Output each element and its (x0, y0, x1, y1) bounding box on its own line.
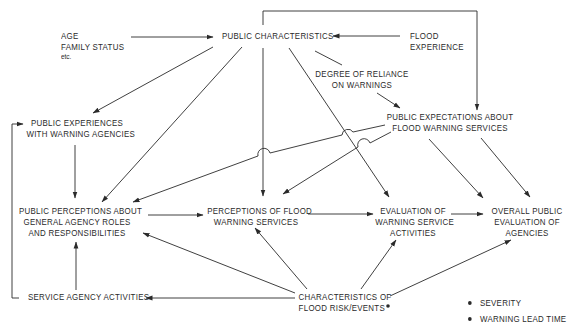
node-demographics-line-1: AGE (61, 31, 124, 42)
edge-risk-to-evaluation (361, 240, 396, 289)
edge-risk-to-overall (390, 240, 511, 296)
node-flood-experience: FLOOD EXPERIENCE (410, 31, 464, 53)
legend-item-warning-lead-time: WARNING LEAD TIME (468, 314, 566, 325)
edge-expectations-to-perceptions-roles (133, 125, 385, 202)
node-demographics-line-2: FAMILY STATUS (61, 42, 124, 53)
node-public-expectations-line-1: PUBLIC EXPECTATIONS ABOUT (386, 112, 515, 123)
node-flood-risk-characteristics-line-1: CHARACTERISTICS OF (299, 292, 382, 303)
node-public-perceptions-roles-line-1: PUBLIC PERCEPTIONS ABOUT (19, 206, 135, 217)
edge-top-feedback-to-expectations (263, 11, 477, 110)
edge-characteristics-to-reliance (315, 51, 342, 65)
node-public-expectations: PUBLIC EXPECTATIONS ABOUT FLOOD WARNING … (386, 112, 515, 134)
legend-item-severity: SEVERITY (468, 298, 521, 309)
node-overall-evaluation-line-2: EVALUATION OF (489, 217, 564, 228)
risk-bullet (386, 304, 390, 308)
node-public-perceptions-roles-line-3: AND RESPONSIBILITIES (19, 228, 135, 239)
node-public-experiences-line-1: PUBLIC EXPERIENCES (26, 118, 127, 129)
node-perceptions-flood-warning: PERCEPTIONS OF FLOOD WARNING SERVICES (207, 206, 305, 228)
node-degree-of-reliance-line-1: DEGREE OF RELIANCE (311, 69, 412, 80)
edge-expectations-to-overall-1 (429, 139, 483, 198)
flood-warning-diagram: AGE FAMILY STATUS etc. PUBLIC CHARACTERI… (0, 0, 580, 327)
node-degree-of-reliance: DEGREE OF RELIANCE ON WARNINGS (311, 69, 412, 91)
node-evaluation-warning-service-line-3: ACTIVITIES (375, 228, 450, 239)
legend-label-severity: SEVERITY (480, 298, 521, 308)
node-flood-risk-characteristics: CHARACTERISTICS OF FLOOD RISK/EVENTS (299, 292, 382, 314)
node-flood-experience-line-2: EXPERIENCE (410, 42, 464, 53)
bullet-icon (468, 301, 472, 305)
node-public-experiences-line-2: WITH WARNING AGENCIES (26, 129, 127, 140)
node-demographics-note: etc. (61, 53, 124, 61)
node-public-experiences: PUBLIC EXPERIENCES WITH WARNING AGENCIES (26, 118, 127, 140)
node-public-perceptions-roles: PUBLIC PERCEPTIONS ABOUT GENERAL AGENCY … (19, 206, 135, 239)
node-perceptions-flood-warning-line-2: WARNING SERVICES (207, 217, 305, 228)
node-public-characteristics: PUBLIC CHARACTERISTICS (222, 31, 334, 42)
legend-label-warning-lead-time: WARNING LEAD TIME (480, 314, 566, 324)
node-perceptions-flood-warning-line-1: PERCEPTIONS OF FLOOD (207, 206, 305, 217)
node-degree-of-reliance-line-2: ON WARNINGS (311, 80, 412, 91)
node-overall-evaluation: OVERALL PUBLIC EVALUATION OF AGENCIES (489, 206, 564, 239)
edge-expectations-to-overall-2 (481, 138, 530, 197)
node-service-agency-activities-line-1: SERVICE AGENCY ACTIVITIES (28, 292, 149, 303)
node-overall-evaluation-line-1: OVERALL PUBLIC (489, 206, 564, 217)
edge-reliance-to-expectations (377, 93, 400, 108)
node-flood-experience-line-1: FLOOD (410, 31, 464, 42)
node-overall-evaluation-line-3: AGENCIES (489, 228, 564, 239)
node-public-expectations-line-2: FLOOD WARNING SERVICES (386, 123, 515, 134)
node-flood-risk-characteristics-line-2: FLOOD RISK/EVENTS (299, 303, 382, 314)
node-evaluation-warning-service: EVALUATION OF WARNING SERVICE ACTIVITIES (375, 206, 450, 239)
node-evaluation-warning-service-line-2: WARNING SERVICE (375, 217, 450, 228)
edge-expectations-to-perceptions-flood (283, 132, 391, 194)
edge-risk-to-perceptions-roles (143, 233, 295, 293)
node-public-perceptions-roles-line-2: GENERAL AGENCY ROLES (19, 217, 135, 228)
node-public-characteristics-line-1: PUBLIC CHARACTERISTICS (222, 31, 334, 42)
node-evaluation-warning-service-line-1: EVALUATION OF (375, 206, 450, 217)
node-demographics: AGE FAMILY STATUS etc. (61, 31, 124, 61)
bullet-icon (468, 317, 472, 321)
node-service-agency-activities: SERVICE AGENCY ACTIVITIES (28, 292, 149, 303)
